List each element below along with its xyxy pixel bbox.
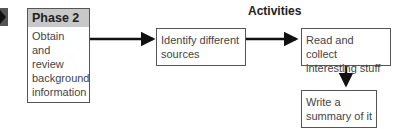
step-line: Identify different: [161, 33, 241, 47]
step-line: sources: [161, 47, 241, 61]
step-line: summary of it: [306, 109, 372, 123]
step-write-summary: Write a summary of it: [301, 90, 377, 128]
step-line: interesting stuff: [306, 61, 386, 75]
step-read-collect: Read and collect interesting stuff: [301, 28, 391, 66]
step-line: Write a: [306, 95, 372, 109]
step-line: Read and collect: [306, 33, 386, 61]
step-identify-sources: Identify different sources: [156, 28, 246, 66]
